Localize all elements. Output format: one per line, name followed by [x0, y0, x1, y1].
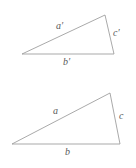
triangles-svg — [0, 0, 136, 168]
label-a: a — [53, 106, 58, 116]
upper-triangle-outline — [22, 15, 114, 54]
label-b-prime: b′ — [63, 57, 70, 67]
label-c: c — [119, 111, 123, 121]
label-c-prime: c′ — [113, 28, 120, 38]
geometry-figure: a′ b′ c′ a b c — [0, 0, 136, 168]
label-a-prime: a′ — [56, 21, 63, 31]
label-b: b — [65, 147, 70, 157]
lower-triangle-outline — [12, 93, 120, 144]
